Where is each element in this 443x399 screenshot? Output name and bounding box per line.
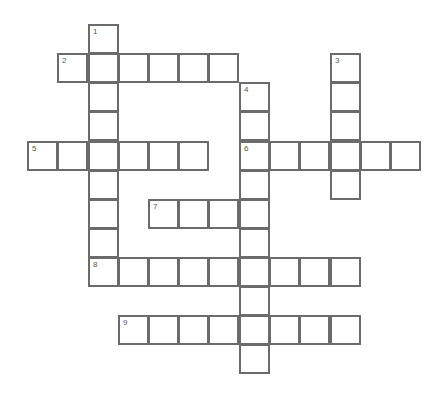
crossword-cell[interactable]: [239, 111, 270, 141]
crossword-cell[interactable]: [208, 315, 239, 345]
crossword-cell[interactable]: [269, 315, 300, 345]
crossword-cell[interactable]: [239, 199, 270, 229]
crossword-cell[interactable]: [118, 141, 149, 171]
crossword-cell[interactable]: [330, 111, 361, 141]
crossword-cell[interactable]: [208, 199, 239, 229]
crossword-cell[interactable]: 2: [57, 53, 88, 83]
crossword-cell[interactable]: [88, 53, 119, 83]
crossword-cell[interactable]: [330, 315, 361, 345]
crossword-cell[interactable]: [178, 199, 209, 229]
clue-number: 1: [93, 28, 97, 36]
crossword-cell[interactable]: [239, 315, 270, 345]
crossword-cell[interactable]: [148, 53, 179, 83]
crossword-cell[interactable]: [239, 228, 270, 258]
crossword-cell[interactable]: [390, 141, 421, 171]
crossword-cell[interactable]: [88, 228, 119, 258]
crossword-cell[interactable]: [360, 141, 391, 171]
crossword-cell[interactable]: [57, 141, 88, 171]
crossword-cell[interactable]: [269, 257, 300, 287]
clue-number: 2: [62, 57, 66, 65]
clue-number: 6: [244, 145, 248, 153]
clue-number: 3: [335, 57, 339, 65]
crossword-cell[interactable]: [88, 170, 119, 200]
crossword-cell[interactable]: 3: [330, 53, 361, 83]
crossword-cell[interactable]: [88, 111, 119, 141]
clue-number: 8: [93, 261, 97, 269]
crossword-cell[interactable]: [178, 315, 209, 345]
crossword-cell[interactable]: [208, 53, 239, 83]
crossword-cell[interactable]: [299, 257, 330, 287]
clue-number: 7: [153, 203, 157, 211]
crossword-cell[interactable]: [239, 170, 270, 200]
crossword-cell[interactable]: [330, 257, 361, 287]
crossword-cell[interactable]: [239, 344, 270, 374]
crossword-cell[interactable]: [88, 82, 119, 112]
crossword-cell[interactable]: 6: [239, 141, 270, 171]
crossword-cell[interactable]: [330, 170, 361, 200]
crossword-cell[interactable]: [148, 141, 179, 171]
crossword-cell[interactable]: [299, 141, 330, 171]
crossword-cell[interactable]: [148, 315, 179, 345]
crossword-cell[interactable]: [269, 141, 300, 171]
crossword-cell[interactable]: [148, 257, 179, 287]
crossword-cell[interactable]: [118, 257, 149, 287]
crossword-cell[interactable]: [88, 141, 119, 171]
crossword-cell[interactable]: [88, 199, 119, 229]
crossword-cell[interactable]: [239, 286, 270, 316]
clue-number: 4: [244, 86, 248, 94]
crossword-grid: 182346579: [0, 0, 443, 399]
clue-number: 5: [32, 145, 36, 153]
crossword-cell[interactable]: [239, 257, 270, 287]
crossword-cell[interactable]: 4: [239, 82, 270, 112]
crossword-cell[interactable]: [330, 141, 361, 171]
crossword-cell[interactable]: [330, 82, 361, 112]
crossword-cell[interactable]: [178, 53, 209, 83]
crossword-cell[interactable]: 8: [88, 257, 119, 287]
crossword-cell[interactable]: 1: [88, 24, 119, 54]
crossword-cell[interactable]: [299, 315, 330, 345]
clue-number: 9: [123, 319, 127, 327]
crossword-cell[interactable]: 7: [148, 199, 179, 229]
crossword-cell[interactable]: [178, 141, 209, 171]
crossword-cell[interactable]: [178, 257, 209, 287]
crossword-cell[interactable]: [118, 53, 149, 83]
crossword-cell[interactable]: [208, 257, 239, 287]
crossword-cell[interactable]: 5: [27, 141, 58, 171]
crossword-cell[interactable]: 9: [118, 315, 149, 345]
